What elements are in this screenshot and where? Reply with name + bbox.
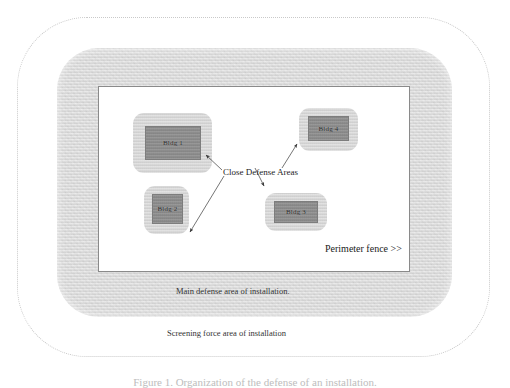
building-2-label: Bldg 2: [157, 205, 177, 213]
building-3-label: Bldg 3: [286, 208, 306, 216]
building-2: Bldg 2: [152, 194, 183, 224]
close-defense-area-2: Bldg 2: [144, 186, 189, 234]
building-4-label: Bldg 4: [318, 125, 338, 133]
main-defense-area-label: Main defense area of installation.: [176, 286, 290, 296]
building-3: Bldg 3: [274, 201, 318, 223]
building-4: Bldg 4: [308, 116, 349, 141]
figure-caption: Figure 1. Organization of the defense of…: [0, 376, 510, 388]
building-1-label: Bldg 1: [163, 139, 183, 147]
close-defense-area-4: Bldg 4: [299, 108, 358, 151]
close-defense-areas-label: Close Defense Areas: [223, 167, 298, 177]
close-defense-area-1: Bldg 1: [133, 113, 212, 173]
close-defense-area-3: Bldg 3: [265, 193, 327, 231]
figure-canvas: Bldg 1 Bldg 2 Bldg 3 Bldg 4: [0, 0, 510, 388]
perimeter-fence-label: Perimeter fence >>: [325, 243, 402, 254]
screening-force-area-label: Screening force area of installation: [167, 328, 286, 338]
building-1: Bldg 1: [145, 126, 201, 160]
